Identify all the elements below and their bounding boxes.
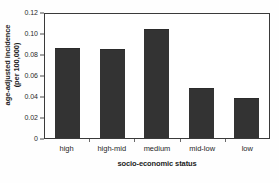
bar-high-mid[interactable]	[100, 49, 125, 138]
y-axis-tick-label: 0.04	[24, 93, 38, 101]
y-axis-tick-label: 0.12	[24, 9, 38, 17]
y-axis-tick-label: 0.06	[24, 72, 38, 80]
y-axis-ticks: 00.020.040.060.080.100.12	[10, 13, 40, 139]
x-axis-tick-mark	[180, 139, 181, 142]
y-axis-tick-label: 0.02	[24, 114, 38, 122]
x-axis-tick-mark	[225, 139, 226, 142]
y-axis-tick-label: 0.10	[24, 30, 38, 38]
y-axis-tick-label: 0	[34, 135, 38, 143]
bar-low[interactable]	[234, 98, 259, 138]
bar-chart-figure: age-adjusted incidence (per 100,000) 00.…	[0, 0, 279, 183]
x-axis-tick-label: high	[44, 143, 89, 155]
bar-slot	[135, 14, 180, 138]
x-axis-tick-label: medium	[134, 143, 179, 155]
x-axis-tick-label: mid-low	[180, 143, 225, 155]
x-axis-tick-labels: highhigh-midmediummid-lowlow	[44, 143, 270, 155]
y-axis-tick-label: 0.08	[24, 51, 38, 59]
bar-medium[interactable]	[144, 29, 169, 138]
bar-slot	[90, 14, 135, 138]
x-axis-tick-label: high-mid	[89, 143, 134, 155]
x-axis-tick-label: low	[225, 143, 270, 155]
bar-high[interactable]	[55, 48, 80, 138]
bar-slot	[45, 14, 90, 138]
bar-slot	[179, 14, 224, 138]
x-axis-tick-mark	[134, 139, 135, 142]
bar-slot	[224, 14, 269, 138]
bar-mid-low[interactable]	[189, 88, 214, 138]
x-axis-title: socio-economic status	[44, 159, 270, 169]
bar-series	[45, 14, 269, 138]
x-axis-tick-mark	[89, 139, 90, 142]
plot-area	[44, 13, 270, 139]
